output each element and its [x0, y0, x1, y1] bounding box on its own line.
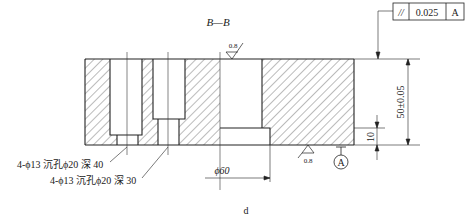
- parallelism-symbol: //: [397, 7, 405, 18]
- diameter-dimension: ϕ60: [214, 165, 229, 176]
- callout-hole-30: 4-ϕ13 沉孔ϕ20 深 30: [50, 174, 136, 186]
- step-dimension: 10: [365, 132, 376, 142]
- text-layer: B—B // 0.025 A 0.8 0.8 A 50±0.05 10 ϕ60 …: [0, 0, 470, 218]
- tolerance-datum: A: [451, 7, 459, 18]
- datum-letter: A: [337, 157, 345, 168]
- tolerance-value: 0.025: [416, 7, 439, 18]
- figure-label: d: [244, 205, 249, 216]
- roughness-bottom-value: 0.8: [304, 157, 313, 165]
- section-label: B—B: [206, 16, 230, 28]
- height-dimension: 50±0.05: [395, 86, 406, 119]
- callout-hole-40: 4-ϕ13 沉孔ϕ20 深 40: [17, 158, 103, 170]
- roughness-top-value: 0.8: [229, 42, 238, 50]
